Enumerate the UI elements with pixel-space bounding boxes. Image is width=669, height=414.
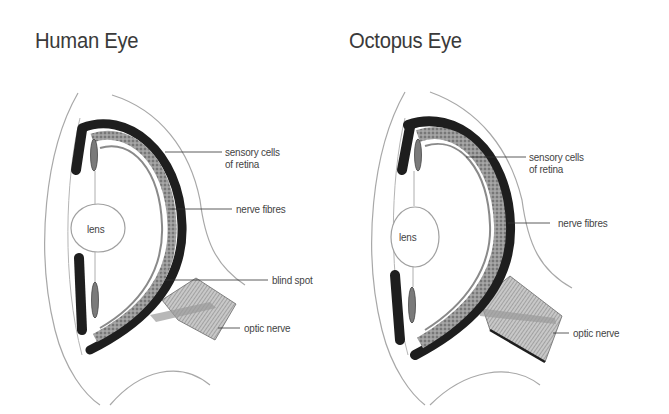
human-nerve-fibres-label: nerve fibres [236, 203, 286, 215]
human-sensory-cells-label: sensory cells of retina [225, 146, 280, 170]
octopus-lens-label: lens [399, 231, 416, 243]
octopus-eye-title: Octopus Eye [349, 28, 462, 54]
octopus-eye-drawing [372, 92, 572, 405]
human-sensory-cells-line1: sensory cells [225, 146, 280, 158]
human-optic-nerve-label: optic nerve [244, 322, 290, 334]
octopus-sensory-cells-line1: sensory cells [529, 151, 584, 163]
human-sensory-cells-line2: of retina [225, 158, 280, 170]
human-eye-title: Human Eye [35, 28, 138, 54]
octopus-sensory-cells-label: sensory cells of retina [529, 151, 584, 175]
eye-comparison-diagram [0, 0, 669, 414]
human-blind-spot-label: blind spot [272, 274, 313, 286]
human-lens-label: lens [87, 223, 104, 235]
octopus-optic-nerve-label: optic nerve [573, 327, 619, 339]
octopus-sensory-cells-line2: of retina [529, 163, 584, 175]
human-eye-drawing [45, 93, 268, 405]
octopus-nerve-fibres-label: nerve fibres [558, 217, 608, 229]
